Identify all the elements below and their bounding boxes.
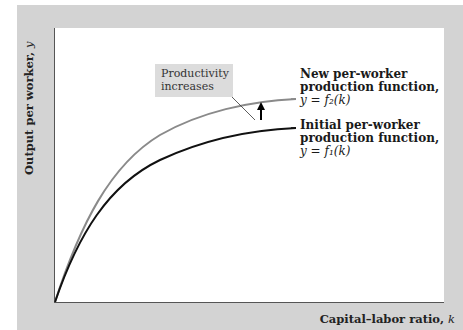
chart-curves	[0, 0, 463, 330]
new-curve-function: y = f₂(k)	[300, 94, 439, 107]
y-axis-label: Output per worker, y	[22, 42, 36, 175]
initial-curve-function: y = f₁(k)	[300, 145, 439, 158]
initial-curve-label: Initial per-worker production function, …	[300, 119, 439, 158]
productivity-callout: Productivity increases	[155, 64, 233, 97]
x-axis-label: Capital–labor ratio, k	[320, 312, 455, 326]
new-curve-label: New per-worker production function, y = …	[300, 68, 439, 107]
curve-new-production-function	[55, 99, 296, 302]
arrow-up-icon	[257, 102, 265, 120]
